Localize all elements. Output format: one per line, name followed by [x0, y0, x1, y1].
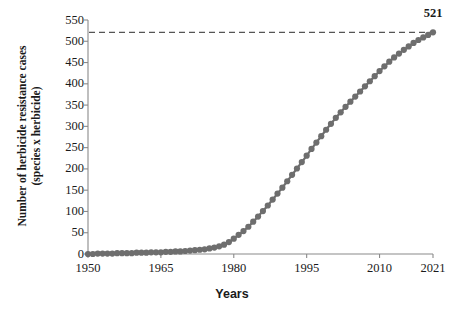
x-tick-label: 1965 — [131, 261, 191, 276]
data-point — [333, 115, 339, 121]
data-series-line — [88, 32, 433, 254]
y-axis-tick-marks — [84, 20, 88, 254]
data-point — [347, 99, 353, 105]
data-point — [338, 109, 344, 115]
data-point — [367, 78, 373, 84]
x-tick-label: 1995 — [277, 261, 337, 276]
x-tick-label: 2010 — [350, 261, 410, 276]
data-point — [328, 121, 334, 127]
data-point — [391, 54, 397, 60]
data-point — [289, 172, 295, 178]
data-point — [231, 236, 237, 242]
data-series-markers — [85, 29, 436, 257]
x-tick-label: 1950 — [58, 261, 118, 276]
data-point — [352, 93, 358, 99]
data-point — [386, 59, 392, 65]
data-point — [323, 127, 329, 133]
data-point — [299, 159, 305, 165]
data-point — [342, 104, 348, 110]
x-tick-label: 2021 — [403, 261, 463, 276]
data-point — [376, 68, 382, 74]
chart-figure: Number of herbicide resistance cases (sp… — [0, 0, 464, 318]
data-point — [255, 213, 261, 219]
data-point — [313, 139, 319, 145]
data-point — [245, 224, 251, 230]
axes-lines — [88, 20, 433, 254]
data-point — [250, 219, 256, 225]
data-point — [294, 165, 300, 171]
data-point — [274, 190, 280, 196]
data-point — [430, 29, 436, 35]
data-point — [396, 51, 402, 57]
data-point — [318, 133, 324, 139]
data-point — [372, 73, 378, 79]
data-point — [240, 228, 246, 234]
data-point — [362, 83, 368, 89]
data-point — [381, 63, 387, 69]
data-point — [265, 202, 271, 208]
data-point — [279, 185, 285, 191]
data-point — [270, 196, 276, 202]
data-point — [260, 208, 266, 214]
annotation-final-value: 521 — [413, 6, 453, 21]
data-point — [357, 88, 363, 94]
x-tick-label: 1980 — [204, 261, 264, 276]
data-point — [236, 232, 242, 238]
data-point — [308, 146, 314, 152]
x-axis-title: Years — [0, 287, 464, 301]
data-point — [304, 153, 310, 159]
data-point — [284, 178, 290, 184]
